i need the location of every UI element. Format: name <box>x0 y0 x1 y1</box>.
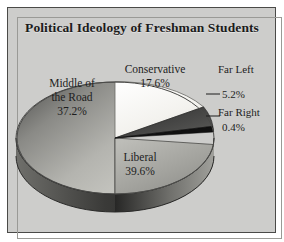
slice-label-middle-name-line1: Middle of <box>49 77 95 89</box>
chart-figure: Political Ideology of Freshman Students <box>0 0 284 242</box>
slice-label-middle-name-line2: the Road <box>51 91 92 103</box>
slice-label-conservative-value: 17.6% <box>140 77 170 89</box>
slice-label-liberal: Liberal 39.6% <box>106 150 174 178</box>
slice-label-conservative: Conservative 17.6% <box>113 62 197 90</box>
slice-label-far-right-value: 0.4% <box>222 121 274 134</box>
slice-label-far-left-value: 5.2% <box>222 88 274 101</box>
slice-label-liberal-value: 39.6% <box>125 165 155 177</box>
slice-label-far-right-name: Far Right <box>218 106 280 119</box>
slice-label-middle-of-the-road: Middle of the Road 37.2% <box>33 76 111 118</box>
chart-title: Political Ideology of Freshman Students <box>0 20 284 36</box>
slice-label-conservative-name: Conservative <box>125 63 186 75</box>
slice-label-far-left-name: Far Left <box>218 63 274 76</box>
slice-label-middle-value: 37.2% <box>57 105 87 117</box>
slice-label-liberal-name: Liberal <box>123 151 156 163</box>
